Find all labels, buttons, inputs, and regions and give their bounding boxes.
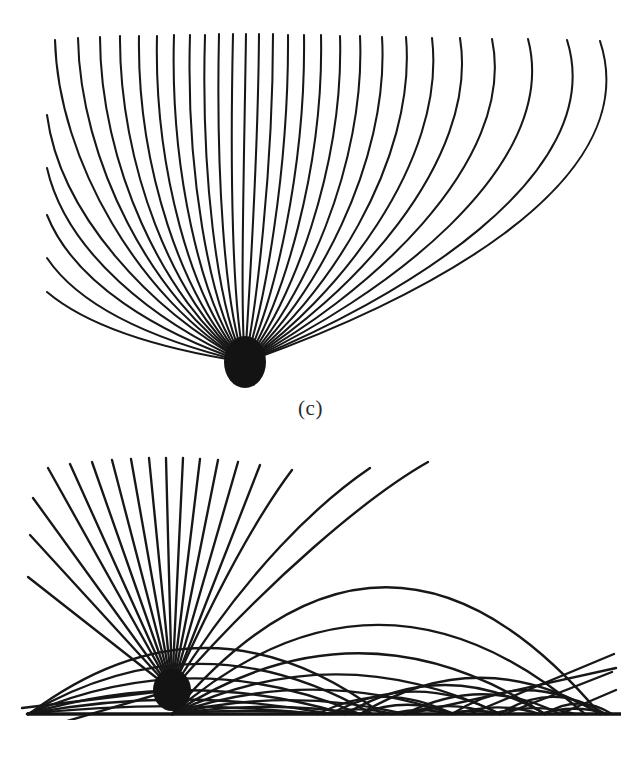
caustic-ray-fan-chart bbox=[0, 0, 621, 392]
bounce-group-d bbox=[318, 678, 612, 714]
ray-14 bbox=[204, 35, 245, 362]
panel-d: (d) bbox=[0, 440, 621, 781]
panel-label-c: (c) bbox=[0, 396, 621, 421]
figure-root: (c) (d) bbox=[0, 0, 621, 781]
ray-32 bbox=[245, 41, 606, 362]
traj-09 bbox=[28, 577, 172, 690]
source-point bbox=[153, 669, 191, 711]
ray-18 bbox=[245, 34, 259, 362]
ray-31 bbox=[245, 40, 573, 362]
ray-17 bbox=[243, 34, 246, 362]
focus-point bbox=[224, 336, 266, 388]
ballistic-trajectory-chart bbox=[0, 440, 621, 720]
panel-c: (c) bbox=[0, 0, 621, 430]
ray-group-c bbox=[47, 34, 606, 362]
ray-10 bbox=[139, 36, 245, 362]
traj-11 bbox=[33, 498, 172, 690]
